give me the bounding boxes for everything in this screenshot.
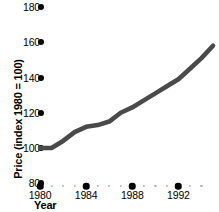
x-axis-minor-dot-icon <box>108 185 110 187</box>
x-axis-minor-dot-icon <box>154 185 156 187</box>
x-axis-minor-dot-icon <box>97 185 99 187</box>
x-tick-label-1984: 1984 <box>66 190 106 201</box>
price-index-line <box>40 46 213 148</box>
x-axis-minor-dot-icon <box>200 185 202 187</box>
x-axis-minor-dot-icon <box>120 185 122 187</box>
x-axis-minor-dot-icon <box>74 185 76 187</box>
plot-area <box>0 0 219 212</box>
x-axis-minor-dot-icon <box>189 185 191 187</box>
x-axis-minor-dot-icon <box>50 185 52 187</box>
x-axis-minor-dot-icon <box>166 185 168 187</box>
x-tick-label-1988: 1988 <box>112 190 152 201</box>
x-axis-minor-dot-icon <box>62 185 64 187</box>
x-tick-label-1992: 1992 <box>158 190 198 201</box>
x-axis-minor-dot-icon <box>143 185 145 187</box>
chart-container: Price (index 1980 = 100) 801001201401601… <box>0 0 219 212</box>
x-axis-title: Year <box>34 200 56 211</box>
